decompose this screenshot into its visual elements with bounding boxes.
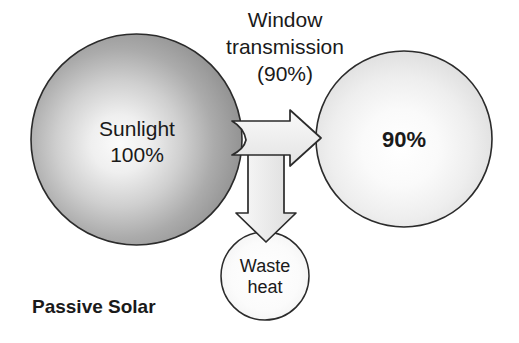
waste-heat-node: Waste heat — [221, 232, 309, 320]
annotation-line3: (90%) — [257, 62, 313, 85]
annotation-line1: Window — [248, 8, 324, 31]
passive-solar-diagram: Sunlight 100% 90% Waste heat Window tran… — [0, 0, 519, 343]
sunlight-label-line1: Sunlight — [99, 117, 175, 140]
waste-heat-label-line1: Waste — [240, 256, 290, 276]
transmission-annotation: Window transmission (90%) — [226, 8, 344, 85]
output-node: 90% — [316, 51, 492, 227]
output-label: 90% — [382, 127, 426, 152]
diagram-canvas: Sunlight 100% 90% Waste heat Window tran… — [0, 0, 519, 343]
annotation-line2: transmission — [226, 35, 344, 58]
waste-heat-circle — [221, 232, 309, 320]
sunlight-node: Sunlight 100% — [31, 34, 242, 245]
sunlight-label-line2: 100% — [110, 143, 164, 166]
diagram-caption: Passive Solar — [32, 296, 156, 317]
waste-heat-label-line2: heat — [247, 277, 282, 297]
